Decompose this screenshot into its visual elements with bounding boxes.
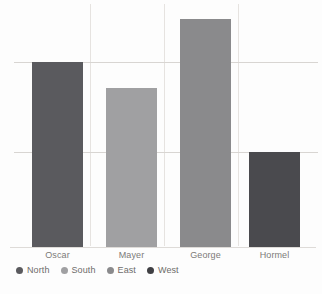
bar-george[interactable] bbox=[180, 19, 231, 247]
plot-area bbox=[0, 0, 322, 248]
bars-layer bbox=[0, 0, 322, 248]
legend-dot-icon bbox=[61, 267, 68, 274]
legend-item-north[interactable]: North bbox=[16, 265, 50, 275]
legend-label-north: North bbox=[27, 265, 50, 275]
bar-hormel[interactable] bbox=[249, 152, 300, 247]
bar-mayer[interactable] bbox=[106, 88, 157, 247]
x-tick-label-oscar: Oscar bbox=[32, 250, 83, 260]
x-tick-label-mayer: Mayer bbox=[106, 250, 157, 260]
legend-dot-icon bbox=[107, 267, 114, 274]
legend-label-east: East bbox=[118, 265, 136, 275]
x-tick-label-george: George bbox=[180, 250, 231, 260]
bar-chart: Oscar Mayer George Hormel North South Ea… bbox=[0, 0, 322, 294]
legend-dot-icon bbox=[147, 267, 154, 274]
legend-label-west: West bbox=[158, 265, 179, 275]
x-axis: Oscar Mayer George Hormel bbox=[0, 248, 322, 266]
legend-item-west[interactable]: West bbox=[147, 265, 179, 275]
legend-item-east[interactable]: East bbox=[107, 265, 136, 275]
legend-label-south: South bbox=[72, 265, 96, 275]
legend-dot-icon bbox=[16, 267, 23, 274]
chart-legend: North South East West bbox=[16, 265, 179, 275]
legend-item-south[interactable]: South bbox=[61, 265, 96, 275]
x-tick-label-hormel: Hormel bbox=[249, 250, 300, 260]
bar-oscar[interactable] bbox=[32, 62, 83, 247]
